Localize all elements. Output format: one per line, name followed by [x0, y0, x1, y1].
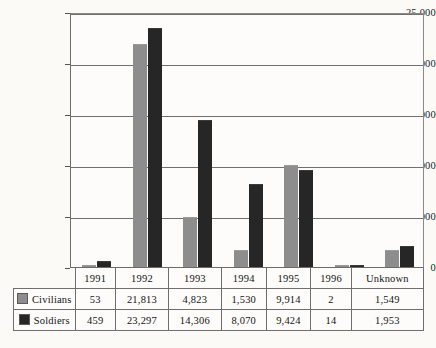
bar-group-1995: [273, 14, 324, 267]
legend-label: Soldiers: [34, 315, 70, 326]
table-column-header-unknown: Unknown: [351, 268, 423, 289]
bar-civilians-1996: [335, 265, 349, 267]
table-cell-soldiers-1995: 9,424: [266, 310, 311, 331]
table-cell-soldiers-1992: 23,297: [115, 310, 168, 331]
bar-soldiers-1991: [97, 261, 111, 267]
table-corner-cell: [14, 268, 76, 289]
bar-soldiers-1996: [350, 265, 364, 267]
civilians-swatch-icon: [17, 293, 28, 304]
table-column-header-1991: 1991: [75, 268, 115, 289]
table-cell-soldiers-1996: 14: [311, 310, 351, 331]
bar-soldiers-1992: [148, 28, 162, 267]
table-cell-civilians-1995: 9,914: [266, 289, 311, 310]
bar-civilians-1995: [284, 165, 298, 267]
table-column-header-1993: 1993: [168, 268, 221, 289]
bar-civilians-1993: [183, 217, 197, 267]
bar-civilians-unknown: [385, 250, 399, 267]
bar-soldiers-1994: [249, 184, 263, 267]
bar-civilians-1992: [133, 44, 147, 267]
bar-group-1991: [71, 14, 122, 267]
table-cell-civilians-1991: 53: [75, 289, 115, 310]
table-row: Soldiers45923,29714,3068,0709,424141,953: [14, 310, 424, 331]
bars-layer: [71, 14, 423, 267]
table-header-row: 199119921993199419951996Unknown: [14, 268, 424, 289]
table-cell-civilians-1994: 1,530: [221, 289, 266, 310]
data-table: 199119921993199419951996UnknownCivilians…: [13, 268, 424, 331]
bar-civilians-1991: [82, 265, 96, 267]
bar-group-unknown: [374, 14, 424, 267]
table-column-header-1992: 1992: [115, 268, 168, 289]
table-cell-soldiers-unknown: 1,953: [351, 310, 423, 331]
bar-soldiers-1995: [299, 170, 313, 267]
table-cell-civilians-unknown: 1,549: [351, 289, 423, 310]
bar-group-1994: [223, 14, 274, 267]
table-row: Civilians5321,8134,8231,5309,91421,549: [14, 289, 424, 310]
table-cell-civilians-1996: 2: [311, 289, 351, 310]
legend-item-civilians: Civilians: [14, 289, 76, 310]
chart-figure: 25,00020,00015,00010,0005,0000 199119921…: [0, 0, 436, 348]
table-cell-soldiers-1991: 459: [75, 310, 115, 331]
bar-civilians-1994: [234, 250, 248, 267]
table-cell-civilians-1993: 4,823: [168, 289, 221, 310]
table-cell-soldiers-1993: 14,306: [168, 310, 221, 331]
table-cell-soldiers-1994: 8,070: [221, 310, 266, 331]
legend-label: Civilians: [32, 294, 72, 305]
plot-area: [70, 13, 424, 268]
bar-group-1996: [324, 14, 375, 267]
bar-group-1992: [122, 14, 173, 267]
bar-soldiers-unknown: [400, 246, 414, 267]
legend-item-soldiers: Soldiers: [14, 310, 76, 331]
bar-soldiers-1993: [198, 120, 212, 267]
table-column-header-1994: 1994: [221, 268, 266, 289]
bar-group-1993: [172, 14, 223, 267]
table-column-header-1995: 1995: [266, 268, 311, 289]
table-cell-civilians-1992: 21,813: [115, 289, 168, 310]
soldiers-swatch-icon: [19, 314, 30, 325]
table-column-header-1996: 1996: [311, 268, 351, 289]
